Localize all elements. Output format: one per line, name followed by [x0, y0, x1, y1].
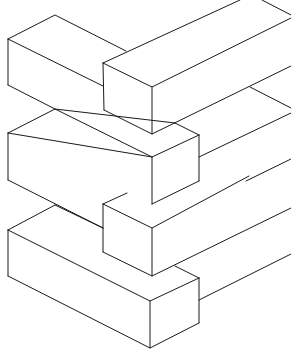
upper-left-block [8, 15, 126, 109]
impossible-blocks-drawing [0, 0, 291, 355]
lower-right-block [103, 176, 291, 300]
drawing-canvas [0, 0, 291, 355]
middle-right-beam [175, 87, 291, 181]
upper-right-beam [103, 0, 291, 134]
